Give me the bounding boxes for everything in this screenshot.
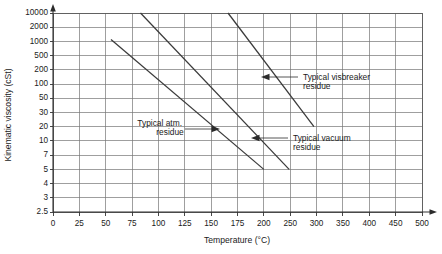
y-tick-label: 5 xyxy=(43,165,48,174)
x-tick-label: 300 xyxy=(310,219,324,228)
viscosity-temperature-chart: 10000200010005002001005030201075432.5 02… xyxy=(0,0,442,254)
y-tick-label: 100 xyxy=(34,79,48,88)
x-tick-label: 175 xyxy=(231,219,245,228)
x-tick-label: 250 xyxy=(283,219,297,228)
x-tick-label: 25 xyxy=(75,219,85,228)
x-tick-label: 100 xyxy=(152,219,166,228)
y-tick-label: 50 xyxy=(39,93,49,102)
x-tick-label: 200 xyxy=(257,219,271,228)
y-tick-label: 30 xyxy=(39,108,49,117)
x-tick-label: 75 xyxy=(128,219,138,228)
y-tick-label: 200 xyxy=(34,65,48,74)
y-tick-label: 1000 xyxy=(30,37,49,46)
x-tick-label: 400 xyxy=(362,219,376,228)
annotation-vacuum-residue-line2: residue xyxy=(293,142,321,152)
x-tick-label: 500 xyxy=(415,219,429,228)
x-tick-label: 350 xyxy=(336,219,350,228)
x-tick-label: 150 xyxy=(204,219,218,228)
y-tick-label: 7 xyxy=(43,150,48,159)
x-tick-labels: 0255075100125150175200250300350400450500 xyxy=(51,219,430,228)
annotation-atm-residue-line2: residue xyxy=(156,127,184,137)
x-tick-label: 450 xyxy=(389,219,403,228)
y-tick-label: 500 xyxy=(34,51,48,60)
x-axis-title: Temperature (°C) xyxy=(204,235,270,245)
chart-svg: 10000200010005002001005030201075432.5 02… xyxy=(0,0,442,254)
x-tick-label: 50 xyxy=(101,219,111,228)
y-tick-label: 2.5 xyxy=(37,207,49,216)
y-tick-label: 4 xyxy=(43,179,48,188)
y-tick-label: 3 xyxy=(43,193,48,202)
x-tick-label: 0 xyxy=(51,219,56,228)
annotation-visbreaker-residue-line2: residue xyxy=(303,81,331,91)
y-tick-label: 10000 xyxy=(25,8,48,17)
y-tick-label: 2000 xyxy=(30,22,49,31)
x-tick-label: 125 xyxy=(178,219,192,228)
y-tick-label: 20 xyxy=(39,122,49,131)
y-axis-title: Kinematic viscosity (cSt) xyxy=(3,68,13,161)
y-tick-label: 10 xyxy=(39,136,49,145)
